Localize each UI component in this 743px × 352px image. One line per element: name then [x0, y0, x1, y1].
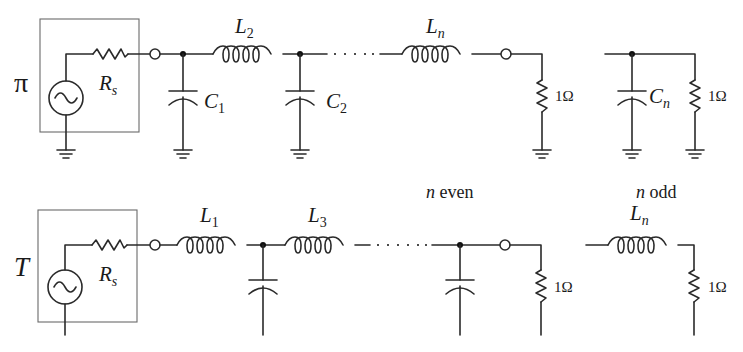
t-network: T Rs L1 L3 [14, 182, 727, 335]
load-label: 1Ω [708, 88, 727, 104]
inductor-l3-icon [285, 237, 343, 253]
input-terminal [150, 240, 160, 250]
pi-label: π [14, 67, 28, 98]
load-resistor-icon [536, 270, 546, 302]
source-resistor-icon [93, 49, 128, 59]
inductor-l2-icon [213, 46, 271, 62]
ground-icon [533, 150, 551, 158]
ellipsis-dots [377, 244, 427, 246]
c2-label: C2 [326, 89, 347, 116]
load-resistor-icon [689, 270, 699, 302]
output-terminal [501, 49, 511, 59]
pi-network: π Rs C1 L2 [14, 14, 727, 158]
source-resistor-icon [92, 240, 127, 250]
c1-label: C1 [204, 89, 225, 116]
rs-label: Rs [98, 262, 118, 289]
ln-odd-label: Ln [629, 201, 649, 228]
t-label: T [14, 252, 31, 282]
l3-label: L3 [307, 203, 327, 230]
ground-icon [623, 150, 641, 158]
load-label: 1Ω [555, 88, 574, 104]
rs-label: Rs [98, 71, 118, 98]
ac-source-icon [48, 270, 82, 304]
inductor-ln-icon [608, 237, 666, 253]
input-terminal [150, 49, 160, 59]
l2-label: L2 [234, 14, 254, 41]
ground-icon [291, 150, 309, 158]
inductor-ln-icon [402, 46, 460, 62]
ground-icon [686, 150, 704, 158]
ac-source-icon [49, 81, 83, 115]
load-label: 1Ω [554, 279, 573, 295]
ground-icon [174, 150, 192, 158]
l1-label: L1 [199, 203, 219, 230]
ellipsis-dots [334, 53, 374, 55]
load-resistor-icon [690, 80, 700, 112]
inductor-l1-icon [177, 237, 235, 253]
n-odd-note: n odd [636, 182, 677, 202]
t-source-box [38, 210, 137, 322]
load-resistor-icon [537, 80, 547, 112]
pi-source-box [40, 19, 139, 132]
n-even-note: n even [426, 182, 473, 202]
output-terminal [500, 240, 510, 250]
ln-label: Ln [425, 14, 445, 41]
cn-label: Cn [649, 84, 670, 111]
ground-icon [57, 150, 75, 158]
load-label: 1Ω [708, 279, 727, 295]
